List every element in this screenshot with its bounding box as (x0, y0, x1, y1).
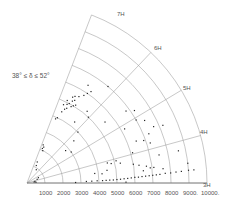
data-point (71, 151, 72, 152)
hour-label-4h: 4H (200, 129, 208, 135)
radial-arc (66, 82, 135, 183)
radial-tick-label: 9000. (183, 190, 198, 196)
data-point (65, 150, 66, 151)
data-point (193, 169, 194, 170)
data-point (138, 165, 139, 166)
data-point (124, 178, 125, 179)
data-point (75, 105, 76, 106)
data-point (136, 140, 137, 141)
data-point (188, 170, 189, 171)
radial-tick-label: 7000 (147, 190, 161, 196)
data-point (116, 179, 117, 180)
data-point (162, 125, 163, 126)
radial-arc (92, 15, 207, 183)
radial-arc (72, 65, 153, 183)
data-point (78, 96, 79, 97)
data-point (120, 179, 121, 180)
data-point (144, 120, 145, 121)
hour-label-7h: 7H (117, 11, 125, 17)
data-point (170, 172, 171, 173)
data-point (73, 140, 74, 141)
data-point (149, 175, 150, 176)
data-point (43, 147, 44, 148)
data-point (74, 100, 75, 101)
data-point (181, 171, 182, 172)
data-point (35, 182, 36, 183)
radial-tick-label: 4000 (93, 190, 107, 196)
data-point (67, 100, 68, 101)
data-point (42, 150, 43, 151)
radial-tick-label: 2000 (57, 190, 71, 196)
data-point (63, 104, 64, 105)
data-point (162, 168, 163, 169)
data-point (107, 162, 108, 163)
data-point (43, 144, 44, 145)
data-point (148, 133, 149, 134)
hour-line (27, 15, 92, 183)
data-point (159, 174, 160, 175)
data-point (91, 181, 92, 182)
data-point (156, 174, 157, 175)
data-point (152, 175, 153, 176)
data-point (136, 119, 137, 120)
data-point (36, 165, 37, 166)
data-point (113, 179, 114, 180)
data-point (72, 101, 73, 102)
data-point (69, 103, 70, 104)
data-point (73, 105, 74, 106)
data-point (87, 85, 88, 86)
data-point (75, 182, 76, 183)
radial-tick-label: 5000 (111, 190, 125, 196)
data-point (125, 110, 126, 111)
data-point (94, 173, 95, 174)
data-point (146, 166, 147, 167)
radial-tick-labels: 100020003000400050006000700080009000.100… (39, 190, 220, 196)
data-point (131, 177, 132, 178)
hour-labels: 3H4H5H6H7H (117, 11, 211, 188)
data-point (141, 176, 142, 177)
data-point (74, 121, 75, 122)
radial-arc (79, 49, 171, 183)
data-point (132, 152, 133, 153)
data-point (36, 169, 37, 170)
data-point (134, 110, 135, 111)
data-point (102, 180, 103, 181)
data-point (106, 170, 107, 171)
data-point (150, 142, 151, 143)
data-point (57, 117, 58, 118)
data-point (88, 117, 89, 118)
data-point (83, 95, 84, 96)
hour-label-6h: 6H (154, 45, 162, 51)
data-point (37, 161, 38, 162)
data-point (71, 106, 72, 107)
data-point (175, 171, 176, 172)
data-point (145, 176, 146, 177)
radial-arc (85, 32, 189, 183)
data-point (77, 131, 78, 132)
data-point (187, 163, 188, 164)
data-point (101, 173, 102, 174)
data-point (150, 167, 151, 168)
data-point (66, 104, 67, 105)
data-point (104, 121, 105, 122)
data-point (143, 140, 144, 141)
data-point (61, 111, 62, 112)
data-point (34, 181, 35, 182)
data-point (165, 173, 166, 174)
data-point (72, 97, 73, 98)
radial-tick-label: 1000 (39, 190, 53, 196)
data-point (120, 163, 121, 164)
data-point (74, 96, 75, 97)
data-point (107, 86, 108, 87)
radial-arc (53, 116, 99, 183)
data-point (111, 163, 112, 164)
data-point (64, 109, 65, 110)
radial-arc (46, 133, 81, 183)
data-point (115, 160, 116, 161)
data-point (55, 118, 56, 119)
hour-line (27, 136, 201, 183)
data-point (87, 93, 88, 94)
data-point (158, 154, 159, 155)
data-point (109, 180, 110, 181)
chart-grid (27, 15, 207, 183)
